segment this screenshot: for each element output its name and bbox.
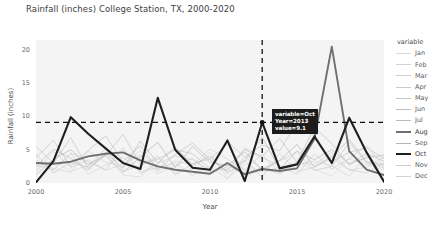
legend-item-dec[interactable]: Dec <box>396 171 446 182</box>
legend-swatch-icon <box>396 87 411 88</box>
y-axis-label: Rainfall (inches) <box>7 86 15 146</box>
legend-label: Feb <box>415 62 427 69</box>
y-tick-label: 5 <box>26 146 30 154</box>
legend-swatch-icon <box>396 176 411 177</box>
tooltip-value: value=9.1 <box>275 125 315 132</box>
series-line-oct[interactable] <box>36 98 384 182</box>
legend-swatch-icon <box>396 131 411 133</box>
legend-label: Oct <box>415 151 426 158</box>
legend-swatch-icon <box>396 64 411 65</box>
legend-item-jul[interactable]: Jul <box>396 115 446 126</box>
y-tick-label: 15 <box>22 79 30 87</box>
legend-swatch-icon <box>396 120 411 121</box>
legend-item-mar[interactable]: Mar <box>396 70 446 81</box>
legend-item-oct[interactable]: Oct <box>396 149 446 160</box>
plot-area[interactable] <box>36 40 384 183</box>
legend-swatch-icon <box>396 53 411 54</box>
data-tooltip: variable=Oct Year=2013 value=9.1 <box>272 109 318 134</box>
x-tick-label: 2000 <box>28 188 45 196</box>
legend-label: Jan <box>415 50 425 57</box>
legend-label: Aug <box>415 129 428 136</box>
legend-label: Mar <box>415 73 427 80</box>
legend-label: Jun <box>415 106 425 113</box>
chart-figure: Rainfall (inches) College Station, TX, 2… <box>0 0 447 225</box>
series-line-aug[interactable] <box>36 47 384 175</box>
legend-swatch-icon <box>396 153 411 155</box>
legend-label: Jul <box>415 117 423 124</box>
y-tick-label: 0 <box>26 179 30 187</box>
legend-swatch-icon <box>396 75 411 76</box>
legend[interactable]: variable JanFebMarAprMayJunJulAugSepOctN… <box>396 38 446 182</box>
legend-swatch-icon <box>396 98 411 99</box>
series-group <box>36 47 384 183</box>
legend-swatch-icon <box>396 109 411 110</box>
legend-item-aug[interactable]: Aug <box>396 126 446 137</box>
chart-title: Rainfall (inches) College Station, TX, 2… <box>26 4 235 14</box>
legend-label: Dec <box>415 173 428 180</box>
tooltip-year: Year=2013 <box>275 118 315 125</box>
legend-item-jan[interactable]: Jan <box>396 48 446 59</box>
legend-item-feb[interactable]: Feb <box>396 59 446 70</box>
y-axis-tick-labels: 05101520 <box>0 40 34 183</box>
x-axis-label: Year <box>36 203 384 211</box>
legend-item-jun[interactable]: Jun <box>396 104 446 115</box>
x-tick-label: 2015 <box>289 188 306 196</box>
legend-swatch-icon <box>396 165 411 166</box>
legend-item-apr[interactable]: Apr <box>396 82 446 93</box>
legend-label: Nov <box>415 162 428 169</box>
y-tick-label: 10 <box>22 112 30 120</box>
x-tick-label: 2010 <box>202 188 219 196</box>
x-tick-label: 2020 <box>376 188 393 196</box>
legend-label: Apr <box>415 84 426 91</box>
legend-label: May <box>415 95 428 102</box>
x-axis-tick-labels: 20002005201020152020 <box>36 185 384 199</box>
x-tick-label: 2005 <box>115 188 132 196</box>
series-lines <box>36 40 384 183</box>
legend-item-sep[interactable]: Sep <box>396 138 446 149</box>
legend-item-nov[interactable]: Nov <box>396 160 446 171</box>
hover-marker-point[interactable] <box>260 120 265 125</box>
legend-item-may[interactable]: May <box>396 93 446 104</box>
legend-items: JanFebMarAprMayJunJulAugSepOctNovDec <box>396 48 446 182</box>
legend-swatch-icon <box>396 143 411 144</box>
tooltip-variable: variable=Oct <box>275 111 315 118</box>
legend-label: Sep <box>415 140 427 147</box>
legend-title: variable <box>396 38 446 46</box>
y-tick-label: 20 <box>22 46 30 54</box>
